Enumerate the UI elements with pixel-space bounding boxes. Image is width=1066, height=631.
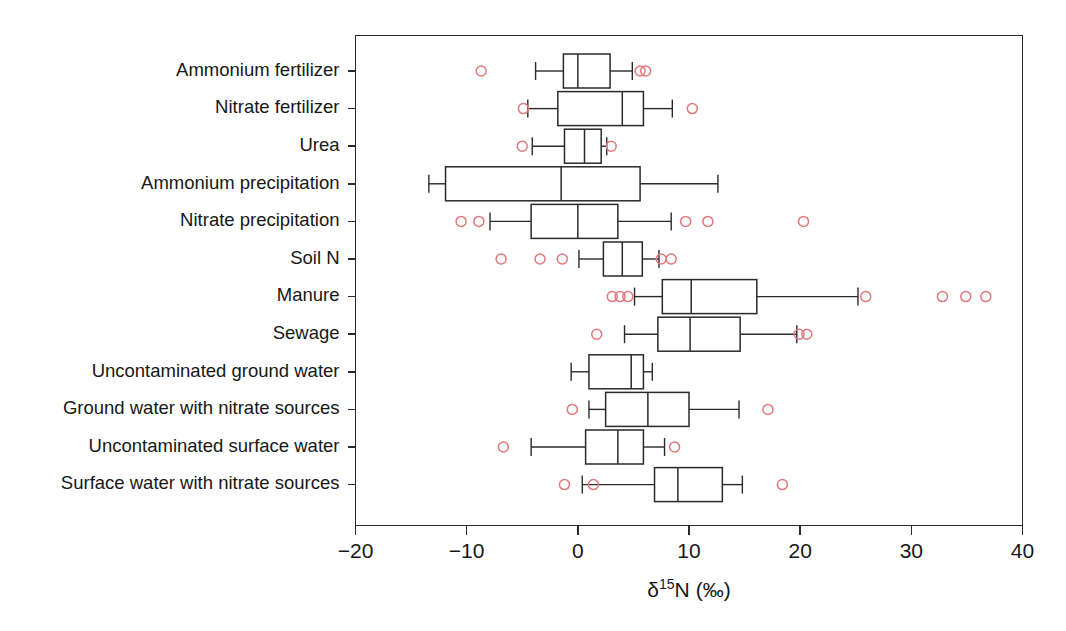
- box-plot-row-7: [607, 280, 991, 314]
- box-plots: [429, 54, 991, 502]
- outlier-point: [681, 216, 691, 226]
- boxplot-figure: −20−10010203040 Ammonium fertilizerNitra…: [0, 0, 1066, 631]
- box-iqr: [558, 92, 644, 126]
- box-plot-row-11: [498, 430, 679, 464]
- box-plot-row-4: [429, 167, 718, 201]
- y-category-label-7: Manure: [277, 284, 340, 305]
- outlier-point: [592, 329, 602, 339]
- box-plot-row-2: [518, 92, 697, 126]
- outlier-point: [498, 442, 508, 452]
- outlier-point: [496, 254, 506, 264]
- y-category-label-8: Sewage: [273, 322, 340, 343]
- box-iqr: [586, 430, 644, 464]
- plot-frame: [356, 36, 1023, 526]
- y-category-label-11: Uncontaminated surface water: [89, 435, 340, 456]
- box-plot-row-5: [456, 204, 808, 238]
- outlier-point: [557, 254, 567, 264]
- y-category-label-6: Soil N: [290, 247, 339, 268]
- x-tick-label--10: −10: [449, 539, 485, 562]
- box-iqr: [446, 167, 641, 201]
- y-axis-category-labels: Ammonium fertilizerNitrate fertilizerUre…: [61, 59, 356, 494]
- x-tick-label-0: 0: [572, 539, 584, 562]
- outlier-point: [670, 442, 680, 452]
- y-category-label-12: Surface water with nitrate sources: [61, 472, 340, 493]
- outlier-point: [474, 216, 484, 226]
- box-plot-row-8: [592, 317, 812, 351]
- outlier-point: [799, 216, 809, 226]
- outlier-point: [666, 254, 676, 264]
- outlier-point: [567, 404, 577, 414]
- outlier-point: [606, 141, 616, 151]
- box-iqr: [531, 204, 618, 238]
- outlier-point: [687, 104, 697, 114]
- outlier-point: [703, 216, 713, 226]
- outlier-point: [476, 66, 486, 76]
- box-iqr: [655, 468, 723, 502]
- outlier-point: [763, 404, 773, 414]
- y-category-label-5: Nitrate precipitation: [180, 209, 339, 230]
- box-plot-row-10: [567, 392, 773, 426]
- box-plot-row-12: [559, 468, 787, 502]
- box-iqr: [563, 54, 610, 88]
- x-axis-title-text: δ15N(‰): [647, 576, 730, 601]
- outlier-point: [456, 216, 466, 226]
- x-axis-tick-labels: −20−10010203040: [338, 539, 1034, 562]
- x-tick-label-30: 30: [900, 539, 923, 562]
- outlier-point: [535, 254, 545, 264]
- y-category-label-3: Urea: [299, 134, 340, 155]
- box-iqr: [658, 317, 740, 351]
- y-category-label-10: Ground water with nitrate sources: [63, 397, 340, 418]
- y-category-label-2: Nitrate fertilizer: [215, 96, 339, 117]
- y-category-label-1: Ammonium fertilizer: [176, 59, 339, 80]
- box-plot-row-1: [476, 54, 651, 88]
- outlier-point: [961, 292, 971, 302]
- box-iqr: [564, 129, 601, 163]
- y-category-label-9: Uncontaminated ground water: [92, 360, 340, 381]
- x-tick-label-20: 20: [788, 539, 811, 562]
- outlier-point: [861, 292, 871, 302]
- outlier-point: [777, 480, 787, 490]
- x-tick-label--20: −20: [338, 539, 374, 562]
- box-plot-row-3: [517, 129, 616, 163]
- outlier-point: [518, 104, 528, 114]
- outlier-point: [517, 141, 527, 151]
- outlier-point: [559, 480, 569, 490]
- x-axis-title: δ15N(‰): [647, 576, 730, 601]
- outlier-point: [981, 292, 991, 302]
- box-iqr: [662, 280, 756, 314]
- box-plot-row-6: [496, 242, 676, 276]
- chart-canvas: −20−10010203040 Ammonium fertilizerNitra…: [0, 0, 1066, 631]
- outlier-point: [937, 292, 947, 302]
- plot-frame-border: [356, 36, 1023, 526]
- y-category-label-4: Ammonium precipitation: [141, 172, 339, 193]
- x-tick-label-40: 40: [1011, 539, 1034, 562]
- x-tick-label-10: 10: [677, 539, 700, 562]
- x-axis-ticks: [356, 526, 1023, 535]
- box-iqr: [589, 355, 643, 389]
- box-plot-row-9: [571, 355, 652, 389]
